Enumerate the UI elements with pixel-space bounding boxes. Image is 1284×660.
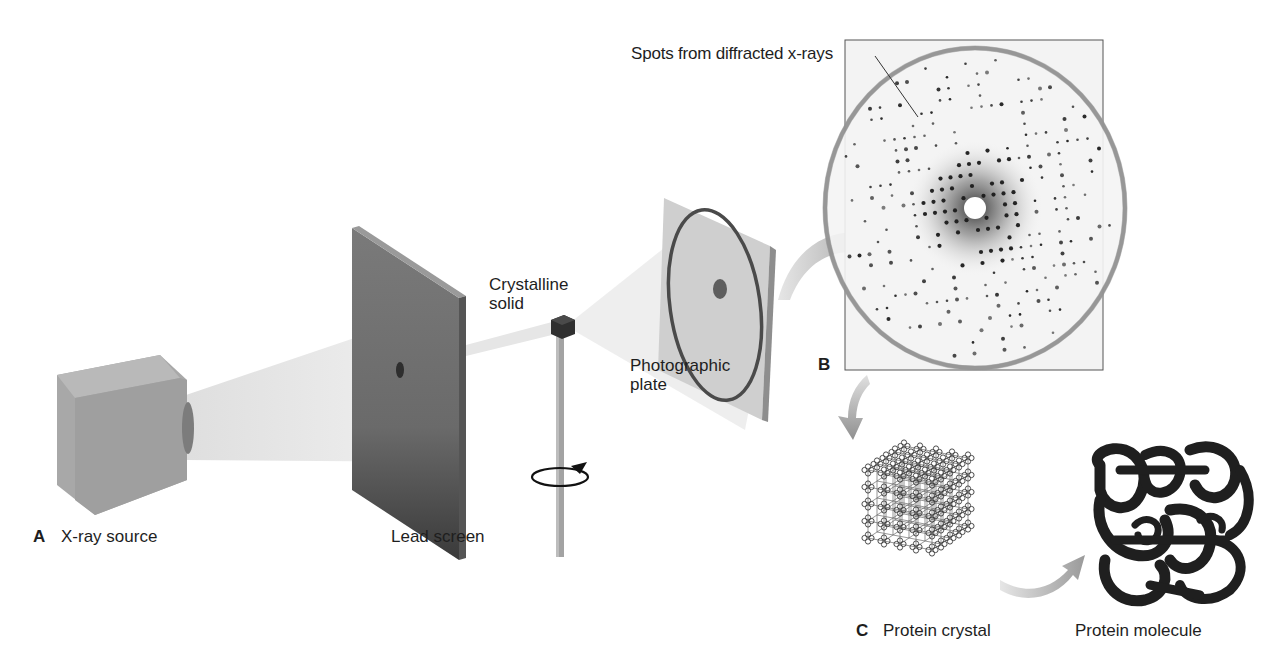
protein-crystal-lattice (862, 440, 974, 556)
label-spots-diffracted-xrays: Spots from diffracted x-rays (631, 44, 833, 63)
arrow-to-protein-molecule (1000, 555, 1085, 598)
diffraction-image (825, 40, 1125, 370)
panel-letter-c: C (856, 621, 868, 641)
panel-letter-a: A (33, 527, 45, 547)
label-protein-molecule: Protein molecule (1075, 621, 1202, 640)
lead-screen (352, 226, 466, 560)
diagram-artwork (0, 0, 1284, 660)
label-crystalline-solid-line1: Crystalline (489, 275, 568, 294)
protein-molecule (1097, 447, 1248, 601)
collimated-beam (466, 322, 556, 356)
label-photographic-plate-line2: plate (630, 375, 667, 394)
label-protein-crystal: Protein crystal (883, 621, 991, 640)
label-lead-screen: Lead screen (391, 527, 485, 546)
label-photographic-plate-line1: Photographic (630, 356, 730, 375)
xray-crystallography-diagram: A X-ray source Lead screen Crystalline s… (0, 0, 1284, 660)
xray-source-box (57, 355, 194, 515)
label-crystalline-solid-line2: solid (489, 294, 524, 313)
label-xray-source: X-ray source (61, 527, 157, 546)
crystal-mount (551, 315, 575, 557)
arrow-to-protein-crystal (838, 375, 870, 440)
panel-letter-b: B (818, 355, 830, 375)
